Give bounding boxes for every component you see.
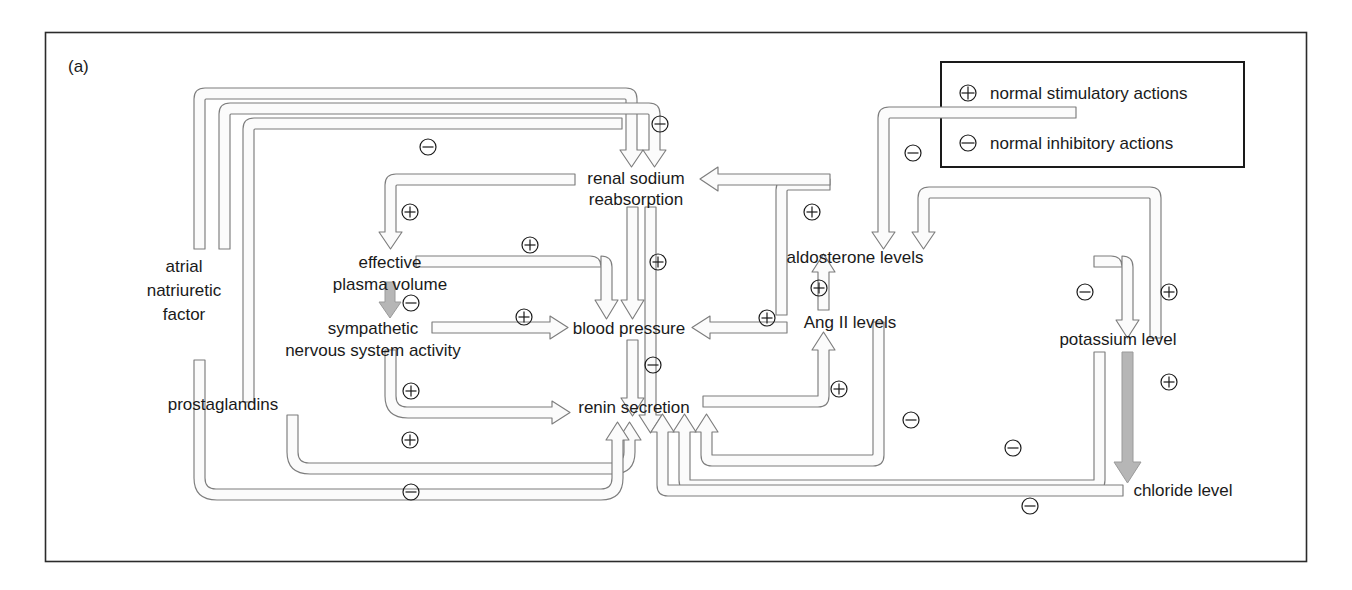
- node-prostaglandins: prostaglandins: [168, 395, 279, 414]
- node-chloride-level: chloride level: [1133, 481, 1232, 500]
- plus-sign-icon: [522, 237, 538, 253]
- edge-renal-sodium-blood-pressure: [621, 207, 644, 319]
- edge-potassium-chloride: [1114, 352, 1141, 483]
- edge-renin-ang-ii: [703, 332, 835, 407]
- node-atrial-natriuretic-factor-line1: atrial: [166, 257, 203, 276]
- edge-aldosterone-renin: [695, 322, 884, 466]
- edge-anf-renin-bottom: [194, 360, 629, 500]
- minus-sign-icon: [403, 295, 419, 311]
- node-atrial-natriuretic-factor-line2: natriuretic: [147, 281, 222, 300]
- node-renin-secretion: renin secretion: [578, 398, 690, 417]
- panel-label: (a): [68, 57, 89, 76]
- plus-sign-icon: [804, 204, 820, 220]
- edge-sympathetic-blood-pressure: [432, 316, 568, 339]
- plus-sign-icon: [403, 383, 419, 399]
- diagram-page: (a) normal stimulatory actions normal in…: [0, 0, 1352, 590]
- plus-sign-icon: [1161, 284, 1177, 300]
- minus-sign-icon: [1022, 498, 1038, 514]
- node-renal-sodium-reabsorption-line2: reabsorption: [589, 190, 684, 209]
- legend-plus-icon: [960, 85, 976, 101]
- minus-sign-icon: [903, 412, 919, 428]
- node-sympathetic-line2: nervous system activity: [285, 341, 461, 360]
- node-aldosterone-levels: aldosterone levels: [786, 248, 923, 267]
- node-effective-plasma-volume-line2: plasma volume: [333, 275, 447, 294]
- edge-potassium-renin: [673, 352, 1105, 491]
- edge-sympathetic-renin: [385, 350, 570, 424]
- legend-label-inhibitory: normal inhibitory actions: [990, 134, 1173, 153]
- node-potassium-level: potassium level: [1059, 330, 1176, 349]
- plus-sign-icon: [831, 381, 847, 397]
- node-blood-pressure: blood pressure: [573, 319, 685, 338]
- minus-sign-icon: [905, 145, 921, 161]
- minus-sign-icon: [1077, 284, 1093, 300]
- legend-minus-icon: [960, 135, 976, 151]
- node-sympathetic-line1: sympathetic: [328, 319, 419, 338]
- plus-sign-icon: [402, 204, 418, 220]
- minus-sign-icon: [420, 139, 436, 155]
- plus-sign-icon: [1161, 374, 1177, 390]
- node-effective-plasma-volume-line1: effective: [358, 253, 421, 272]
- legend-label-stimulatory: normal stimulatory actions: [990, 84, 1187, 103]
- edge-aldosterone-potassium: [1094, 256, 1139, 338]
- node-renal-sodium-reabsorption-line1: renal sodium: [587, 169, 684, 188]
- edge-prostaglandins-renin: [287, 415, 641, 474]
- node-atrial-natriuretic-factor-line3: factor: [163, 305, 206, 324]
- edge-aldosterone-inbound-left: [872, 107, 1076, 249]
- renal-regulation-flow-diagram: (a) normal stimulatory actions normal in…: [0, 0, 1352, 590]
- plus-sign-icon: [402, 432, 418, 448]
- minus-sign-icon: [1005, 440, 1021, 456]
- edge-ang-ii-blood-pressure: [692, 316, 787, 339]
- node-ang-ii-levels: Ang II levels: [804, 313, 897, 332]
